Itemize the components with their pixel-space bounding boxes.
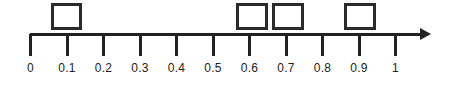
answer-box-2[interactable]	[236, 3, 268, 30]
number-line-worksheet: 00.10.20.30.40.50.60.70.80.91	[0, 0, 451, 90]
tick-label-1: 1	[376, 60, 416, 76]
tick-mark-0.6	[248, 34, 251, 56]
tick-label-0.8: 0.8	[303, 60, 343, 76]
tick-mark-0.1	[66, 34, 69, 56]
tick-label-0: 0	[11, 60, 51, 76]
tick-mark-0.9	[358, 34, 361, 56]
tick-mark-0.3	[139, 34, 142, 56]
answer-box-1[interactable]	[51, 3, 82, 30]
tick-label-0.1: 0.1	[47, 60, 87, 76]
tick-mark-0.7	[285, 34, 288, 56]
tick-mark-0.5	[212, 34, 215, 56]
tick-label-0.5: 0.5	[193, 60, 233, 76]
number-line-axis	[30, 33, 426, 36]
tick-mark-0.8	[321, 34, 324, 56]
tick-label-0.6: 0.6	[230, 60, 270, 76]
answer-box-3[interactable]	[272, 3, 304, 30]
tick-label-0.7: 0.7	[266, 60, 306, 76]
tick-mark-1	[394, 34, 397, 56]
tick-label-0.9: 0.9	[339, 60, 379, 76]
tick-label-0.3: 0.3	[120, 60, 160, 76]
tick-mark-0	[29, 34, 32, 56]
tick-label-0.4: 0.4	[157, 60, 197, 76]
tick-label-0.2: 0.2	[84, 60, 124, 76]
answer-box-4[interactable]	[344, 3, 376, 30]
tick-mark-0.4	[175, 34, 178, 56]
axis-arrow-icon	[420, 28, 431, 40]
tick-mark-0.2	[102, 34, 105, 56]
